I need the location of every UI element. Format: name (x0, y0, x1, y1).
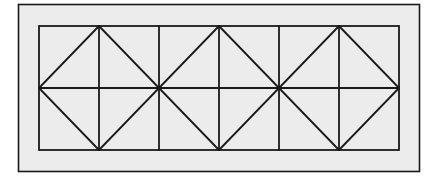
diamond-grid-diagram (0, 0, 428, 178)
